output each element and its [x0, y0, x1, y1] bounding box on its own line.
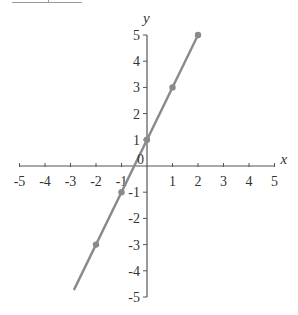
- y-tick-label: 3: [133, 80, 140, 95]
- x-tick-label: -4: [39, 174, 51, 189]
- x-tick-label: -2: [90, 174, 102, 189]
- x-axis-label: x: [280, 151, 288, 167]
- x-tick-label: 2: [195, 174, 202, 189]
- axes: -5-4-3-2-112345-5-4-3-2-112345: [14, 28, 278, 305]
- x-tick-label: 1: [169, 174, 176, 189]
- x-tick-label: 3: [220, 174, 227, 189]
- y-axis-label: y: [141, 10, 150, 26]
- y-tick-label: -1: [128, 185, 140, 200]
- x-tick-label: -5: [14, 174, 26, 189]
- axis-labels: x y 0: [137, 10, 288, 167]
- y-tick-label: 5: [133, 28, 140, 43]
- data-point: [118, 189, 124, 195]
- y-tick-label: 4: [133, 54, 140, 69]
- x-tick-label: -3: [65, 174, 77, 189]
- x-tick-label: 5: [271, 174, 278, 189]
- y-tick-label: -3: [128, 238, 140, 253]
- data-point: [195, 32, 201, 38]
- y-tick-label: -2: [128, 211, 140, 226]
- data-point: [169, 84, 175, 90]
- y-tick-label: 1: [133, 133, 140, 148]
- origin-label: 0: [137, 152, 144, 167]
- line-chart: -5-4-3-2-112345-5-4-3-2-112345 x y 0: [0, 0, 298, 315]
- y-tick-label: -4: [128, 264, 140, 279]
- y-tick-label: 2: [133, 107, 140, 122]
- y-tick-label: -5: [128, 290, 140, 305]
- x-tick-label: 4: [246, 174, 253, 189]
- data-point: [144, 137, 150, 143]
- data-point: [93, 241, 99, 247]
